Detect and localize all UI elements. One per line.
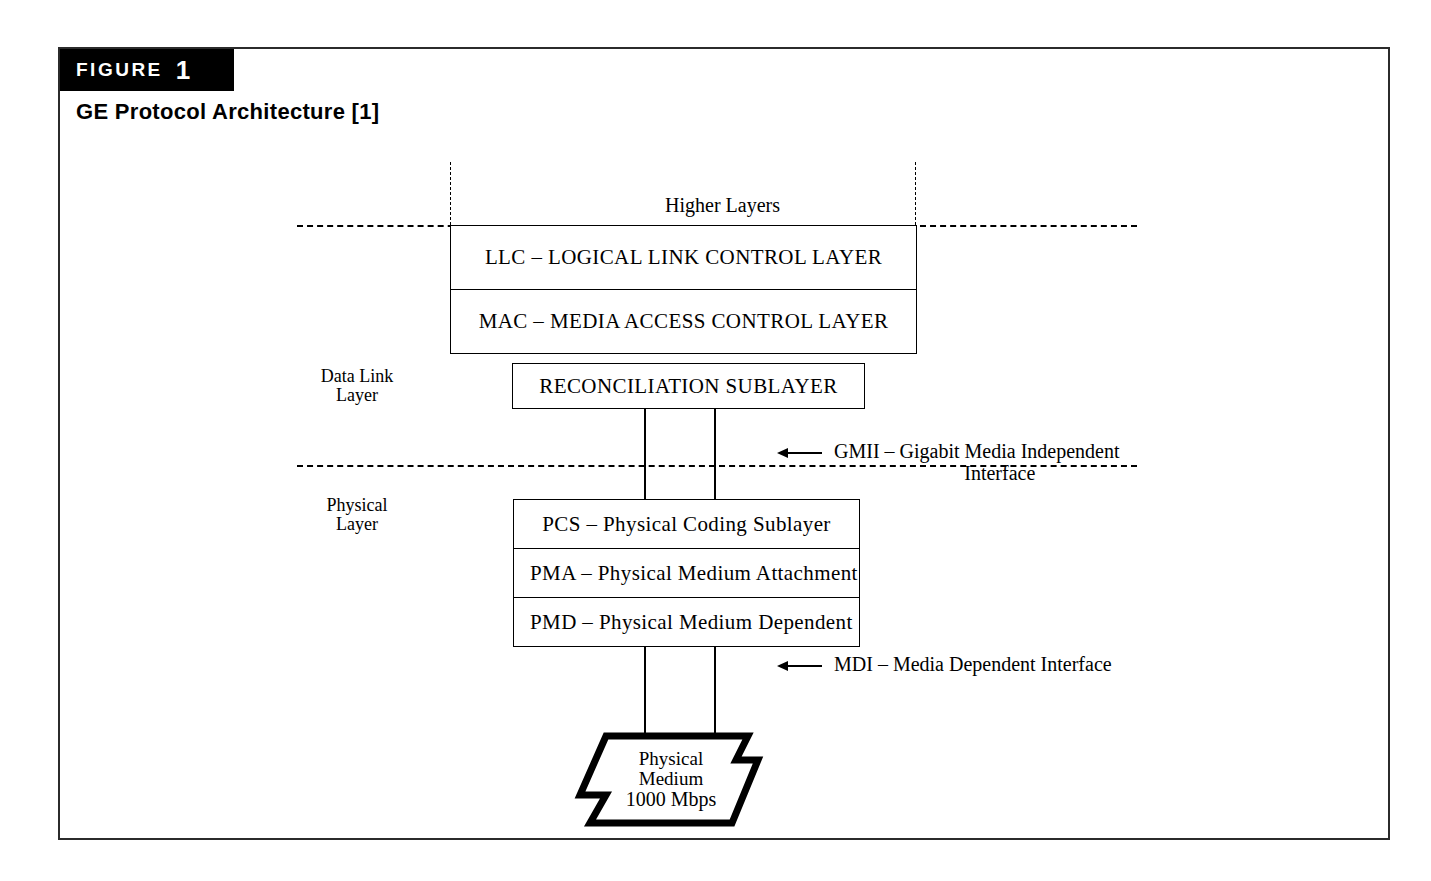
pmd-layer-box: PMD – Physical Medium Dependent <box>513 597 860 647</box>
gmii-arrow-head <box>777 448 788 458</box>
physical-medium-bolt-icon <box>566 732 776 827</box>
protocol-architecture-diagram: Higher Layers LLC – LOGICAL LINK CONTROL… <box>60 49 1392 842</box>
figure-frame: FIGURE 1 GE Protocol Architecture [1] Hi… <box>58 47 1390 840</box>
pmd-layer-label: PMD – Physical Medium Dependent <box>530 610 853 635</box>
right-boundary-dashed-riser <box>915 162 916 225</box>
mdi-connector-line-left <box>644 646 646 736</box>
llc-layer-box: LLC – LOGICAL LINK CONTROL LAYER <box>450 225 917 290</box>
gmii-interface-label-line2: Interface <box>834 462 1119 484</box>
reconciliation-sublayer-label: RECONCILIATION SUBLAYER <box>539 374 837 399</box>
left-boundary-dashed-riser <box>450 162 451 225</box>
physical-medium-shape: Physical Medium 1000 Mbps <box>566 732 776 827</box>
higher-layers-label: Higher Layers <box>665 194 780 217</box>
gmii-interface-label: GMII – Gigabit Media Independent Interfa… <box>834 440 1119 484</box>
mac-layer-box: MAC – MEDIA ACCESS CONTROL LAYER <box>450 289 917 354</box>
mdi-arrow-shaft <box>788 665 822 667</box>
pcs-layer-box: PCS – Physical Coding Sublayer <box>513 499 860 549</box>
mdi-interface-label-line1: MDI – Media Dependent Interface <box>834 653 1112 675</box>
pcs-layer-label: PCS – Physical Coding Sublayer <box>542 512 831 537</box>
mac-layer-label: MAC – MEDIA ACCESS CONTROL LAYER <box>479 309 889 334</box>
physical-layer-side-label: Physical Layer <box>292 496 422 534</box>
gmii-interface-label-line1: GMII – Gigabit Media Independent <box>834 440 1119 462</box>
data-link-layer-side-label: Data Link Layer <box>292 367 422 405</box>
mdi-arrow <box>777 661 822 671</box>
reconciliation-sublayer-box: RECONCILIATION SUBLAYER <box>512 363 865 409</box>
gmii-arrow <box>777 448 822 458</box>
gmii-arrow-shaft <box>788 452 822 454</box>
mdi-connector-line-right <box>714 646 716 736</box>
pma-layer-label: PMA – Physical Medium Attachment <box>530 561 858 586</box>
mdi-arrow-head <box>777 661 788 671</box>
pma-layer-box: PMA – Physical Medium Attachment <box>513 548 860 598</box>
llc-layer-label: LLC – LOGICAL LINK CONTROL LAYER <box>485 245 882 270</box>
mdi-interface-label: MDI – Media Dependent Interface <box>834 653 1112 675</box>
